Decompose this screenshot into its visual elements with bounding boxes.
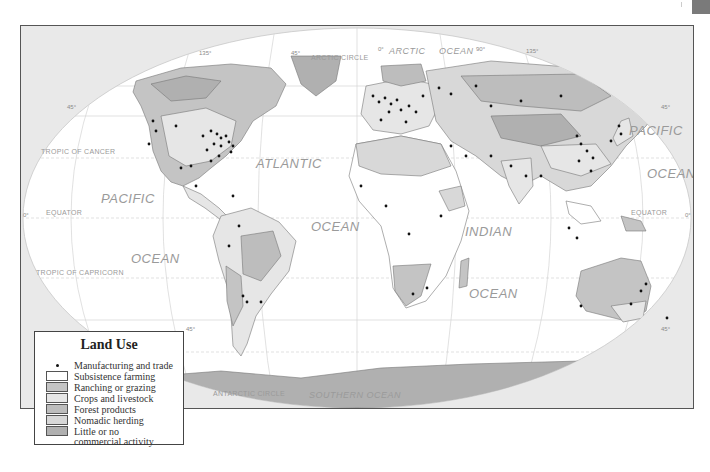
legend-item-little-line2: commercial activity bbox=[39, 436, 179, 447]
legend-item-forest: Forest products bbox=[39, 404, 179, 415]
deg-label: 135° bbox=[526, 48, 538, 54]
pacific-right-label-2: OCEAN bbox=[647, 166, 694, 181]
pacific-left-label-2: OCEAN bbox=[131, 251, 180, 266]
antarctic-circle-label: ANTARCTIC CIRCLE bbox=[213, 390, 285, 397]
atlantic-label-2: OCEAN bbox=[311, 219, 360, 234]
tropic-of-capricorn-label: TROPIC OF CAPRICORN bbox=[36, 269, 124, 276]
southern-ocean-label: SOUTHERN OCEAN bbox=[309, 390, 401, 400]
tropic-of-cancer-label: TROPIC OF CANCER bbox=[41, 148, 115, 155]
legend: Land Use Manufacturing and trade Subsist… bbox=[34, 331, 184, 445]
deg-label: 0° bbox=[378, 46, 384, 52]
deg-label: 45° bbox=[661, 104, 670, 110]
legend-item-nomadic: Nomadic herding bbox=[39, 415, 179, 426]
pacific-left-label-1: PACIFIC bbox=[101, 191, 155, 206]
legend-item-manufacturing: Manufacturing and trade bbox=[39, 360, 179, 371]
swatch-nomadic bbox=[46, 415, 68, 425]
swatch-forest bbox=[46, 404, 68, 414]
deg-label: 0° bbox=[685, 212, 691, 218]
corner-mark bbox=[676, 2, 682, 7]
indian-label-2: OCEAN bbox=[469, 286, 518, 301]
arctic-label-1: ARCTIC bbox=[389, 46, 426, 56]
deg-label: 45° bbox=[186, 326, 195, 332]
deg-label: 45° bbox=[67, 104, 76, 110]
legend-title: Land Use bbox=[35, 337, 183, 353]
legend-item-subsistence: Subsistence farming bbox=[39, 371, 179, 382]
deg-label: 45° bbox=[291, 50, 300, 56]
deg-label: 135° bbox=[199, 50, 211, 56]
deg-label: 0° bbox=[23, 212, 29, 218]
arctic-circle-label: ARCTIC CIRCLE bbox=[311, 54, 369, 61]
deg-label: 90° bbox=[476, 46, 485, 52]
equator-right-label: EQUATOR bbox=[631, 209, 667, 216]
swatch-crops bbox=[46, 393, 68, 403]
deg-label: 45° bbox=[661, 326, 670, 332]
swatch-ranching bbox=[46, 382, 68, 392]
indian-label-1: INDIAN bbox=[465, 224, 512, 239]
swatch-subsistence bbox=[46, 371, 68, 381]
page-tab bbox=[692, 0, 710, 14]
dot-icon bbox=[56, 364, 59, 367]
atlantic-label-1: ATLANTIC bbox=[256, 156, 322, 171]
legend-item-ranching: Ranching or grazing bbox=[39, 382, 179, 393]
equator-left-label: EQUATOR bbox=[46, 209, 82, 216]
arctic-label-2: OCEAN bbox=[439, 46, 474, 56]
swatch-little bbox=[46, 426, 68, 436]
europe bbox=[361, 78, 439, 134]
legend-item-crops: Crops and livestock bbox=[39, 393, 179, 404]
pacific-right-label-1: PACIFIC bbox=[629, 123, 683, 138]
